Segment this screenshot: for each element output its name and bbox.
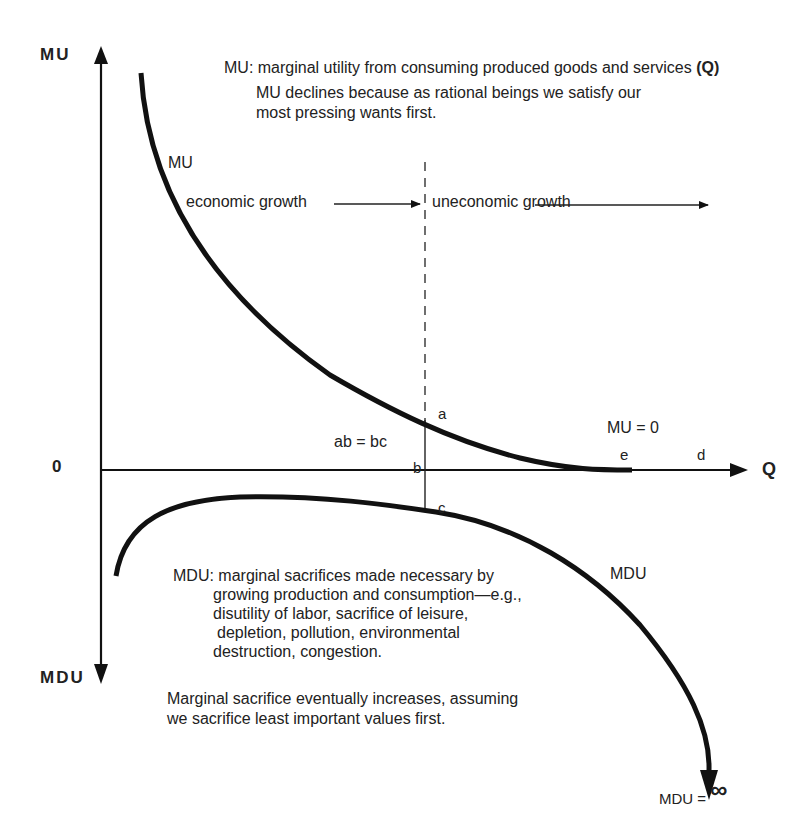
- sacrifice-line2: we sacrifice least important values firs…: [167, 709, 445, 729]
- point-d-label: d: [697, 445, 705, 465]
- mdu-infinity-prefix: MDU =: [659, 790, 710, 807]
- mu-curve: [141, 73, 632, 470]
- economic-growth-label: economic growth: [186, 192, 307, 212]
- mdu-definition-line1: MDU: marginal sacrifices made necessary …: [173, 566, 494, 586]
- sacrifice-line1: Marginal sacrifice eventually increases,…: [167, 689, 518, 709]
- mu-definition: MU: marginal utility from consuming prod…: [224, 58, 719, 78]
- mdu-curve-label: MDU: [610, 564, 646, 584]
- point-b-label: b: [413, 458, 421, 478]
- mu-explanation-line1: MU declines because as rational beings w…: [256, 83, 641, 103]
- mu-axis-arrowhead-icon: [94, 46, 108, 64]
- point-a-label: a: [438, 404, 446, 424]
- mdu-definition-line2: growing production and consumption—e.g.,: [213, 585, 522, 605]
- mu-explanation-line2: most pressing wants first.: [256, 103, 437, 123]
- point-c-label: c: [438, 498, 446, 518]
- infinity-icon: ∞: [710, 776, 727, 803]
- y-axis-positive-label: MU: [40, 45, 70, 65]
- mu-definition-q: (Q): [696, 59, 719, 76]
- mu-curve-label: MU: [168, 153, 193, 173]
- mu-definition-text: MU: marginal utility from consuming prod…: [224, 59, 696, 76]
- mdu-definition-line5: destruction, congestion.: [213, 642, 382, 662]
- uneconomic-growth-label: uneconomic growth: [432, 192, 571, 212]
- mu-zero-label: MU = 0: [607, 418, 659, 438]
- ab-equals-bc-label: ab = bc: [334, 432, 387, 452]
- mdu-definition-line4: depletion, pollution, environmental: [217, 623, 460, 643]
- point-e-label: e: [620, 445, 628, 465]
- mdu-definition-line3: disutility of labor, sacrifice of leisur…: [213, 604, 468, 624]
- mdu-axis-arrowhead-icon: [94, 664, 108, 684]
- q-axis-arrowhead-icon: [730, 463, 748, 477]
- origin-label: 0: [52, 457, 61, 477]
- y-axis-negative-label: MDU: [40, 668, 85, 688]
- mdu-infinity-label: MDU = ∞: [659, 786, 727, 809]
- x-axis-label: Q: [762, 459, 778, 479]
